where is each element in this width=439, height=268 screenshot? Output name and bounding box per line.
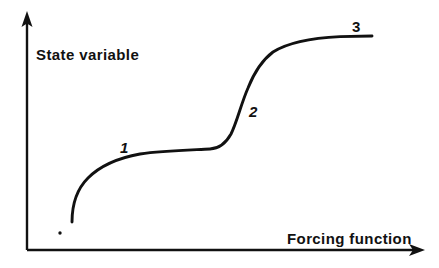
x-axis-label: Forcing function xyxy=(287,230,412,247)
y-axis-label: State variable xyxy=(36,46,139,63)
curve-label-2: 2 xyxy=(248,103,258,120)
origin-dot-marker xyxy=(58,231,61,234)
curve-label-3: 3 xyxy=(352,18,360,35)
curve-label-1: 1 xyxy=(120,139,128,156)
diagram-svg: State variable Forcing function 1 2 3 xyxy=(0,0,439,268)
response-curve xyxy=(72,36,372,222)
figure-canvas: State variable Forcing function 1 2 3 xyxy=(0,0,439,268)
